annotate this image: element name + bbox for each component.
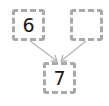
arrow-b-to-c xyxy=(61,41,86,61)
node-label: 7 xyxy=(53,67,65,89)
node-box-top-right xyxy=(70,9,103,41)
node-box-top-left: 6 xyxy=(12,9,45,41)
node-label: 6 xyxy=(22,14,34,36)
node-box-bottom: 7 xyxy=(43,62,76,94)
arrow-a-to-c xyxy=(30,41,57,61)
